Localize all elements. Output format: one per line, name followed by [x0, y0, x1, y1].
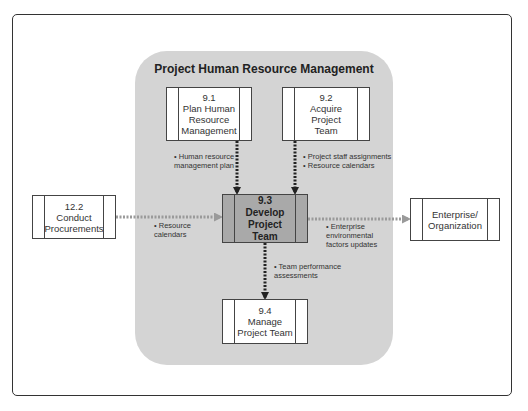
process-label: 9.3 Develop Project Team	[223, 195, 307, 243]
process-9-3-develop-team: 9.3 Develop Project Team	[222, 194, 308, 243]
process-9-4-manage-team: 9.4 Manage Project Team	[222, 299, 308, 344]
enterprise-organization: Enterprise/ Organization	[410, 198, 500, 241]
process-9-2-acquire-team: 9.2 Acquire Project Team	[282, 87, 370, 141]
process-9-1-plan-hr: 9.1 Plan Human Resource Management	[166, 87, 252, 141]
process-12-2-conduct-procurements: 12.2 Conduct Procurements	[32, 195, 116, 239]
flow-label-hr-plan: • Human resource management plan	[174, 152, 234, 170]
process-label: 9.4 Manage Project Team	[224, 305, 305, 338]
flow-label-staff-assignments: • Project staff assignments • Resource c…	[303, 152, 391, 170]
process-label: 9.2 Acquire Project Team	[283, 92, 369, 136]
flow-label-resource-calendars: • Resource calendars	[154, 221, 191, 239]
process-label: 12.2 Conduct Procurements	[31, 201, 116, 234]
flow-label-eef-updates: • Enterprise environmental factors updat…	[326, 222, 377, 249]
flow-label-team-performance: • Team performance assessments	[274, 262, 341, 280]
process-label: 9.1 Plan Human Resource Management	[168, 92, 249, 136]
process-label: Enterprise/ Organization	[415, 209, 495, 231]
